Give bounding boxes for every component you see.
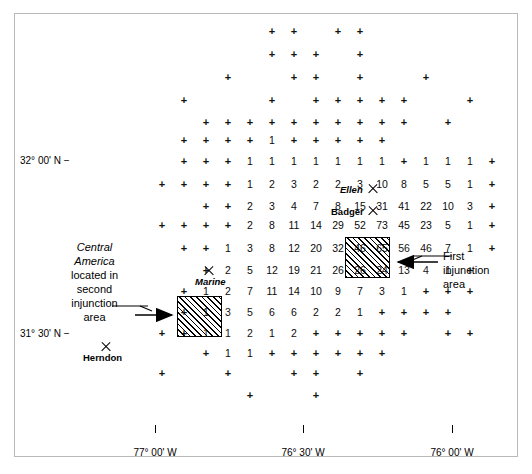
grid-cell-marker: + bbox=[347, 71, 373, 83]
site-label-marine: Marine bbox=[195, 276, 226, 287]
second-injunction-note-line-0: Central bbox=[47, 240, 142, 254]
longitude-label-1: 76° 30' W bbox=[258, 447, 348, 459]
grid-cell-marker: + bbox=[347, 48, 373, 60]
second-injunction-note: CentralAmericalocated insecondinjunction… bbox=[47, 240, 142, 324]
latitude-label-0: 32° 00' N − bbox=[20, 155, 70, 167]
first-injunction-note-line-0: First bbox=[443, 249, 523, 263]
site-label-badger: Badger bbox=[331, 206, 364, 217]
longitude-label-0: 77° 00' W bbox=[110, 447, 200, 459]
grid-cell-marker: + bbox=[435, 306, 461, 318]
grid-cell-marker: + bbox=[303, 389, 329, 401]
grid-cell-marker: + bbox=[347, 25, 373, 37]
longitude-label-2: 76° 00' W bbox=[407, 447, 497, 459]
grid-cell-marker: + bbox=[237, 389, 263, 401]
grid-cell-marker: + bbox=[479, 200, 505, 212]
first-injunction-note-line-2: area bbox=[443, 277, 523, 291]
grid-cell-marker: + bbox=[391, 94, 417, 106]
grid-cell-marker: + bbox=[303, 367, 329, 379]
grid-cell-marker: + bbox=[347, 367, 373, 379]
site-marker-ellen-x-icon[interactable] bbox=[367, 183, 379, 195]
acoustic-density-map-figure: ++++++++++++++++++++++++++++++++++++1+++… bbox=[0, 0, 532, 474]
grid-cell-marker: + bbox=[215, 367, 241, 379]
site-marker-badger-x-icon[interactable] bbox=[367, 205, 379, 217]
grid-cell-marker: + bbox=[479, 178, 505, 190]
second-injunction-note-line-5: area bbox=[47, 310, 142, 324]
grid-cell-marker: + bbox=[369, 134, 395, 146]
grid-cell-marker: + bbox=[479, 219, 505, 231]
grid-cell-marker: + bbox=[303, 71, 329, 83]
first-injunction-note-line-1: injunction bbox=[443, 263, 523, 277]
grid-cell-marker: + bbox=[479, 155, 505, 167]
grid-cell-marker: + bbox=[457, 327, 483, 339]
site-label-herndon: Herndon bbox=[83, 352, 122, 363]
second-injunction-note-line-3: second bbox=[47, 282, 142, 296]
longitude-tick-1 bbox=[303, 425, 304, 433]
second-injunction-note-line-1: America bbox=[47, 254, 142, 268]
grid-cell-marker: + bbox=[259, 94, 285, 106]
grid-cell-marker: + bbox=[457, 94, 483, 106]
grid-cell-marker: + bbox=[413, 71, 439, 83]
second-injunction-note-line-2: located in bbox=[47, 268, 142, 282]
site-label-ellen: Ellen bbox=[340, 184, 363, 195]
grid-cell-marker: + bbox=[391, 116, 417, 128]
longitude-tick-0 bbox=[155, 425, 156, 433]
first-injunction-note: Firstinjunctionarea bbox=[443, 249, 523, 291]
grid-cell-marker: + bbox=[303, 48, 329, 60]
grid-cell-marker: + bbox=[215, 71, 241, 83]
longitude-tick-2 bbox=[452, 425, 453, 433]
grid-cell-marker: + bbox=[281, 25, 307, 37]
second-injunction-note-line-4: injunction bbox=[47, 296, 142, 310]
grid-cell-marker: + bbox=[369, 347, 395, 359]
grid-cell-marker: + bbox=[171, 94, 197, 106]
latitude-label-1: 31° 30' N − bbox=[20, 328, 70, 340]
grid-cell-marker: + bbox=[149, 367, 175, 379]
grid-cell-marker: + bbox=[435, 116, 461, 128]
detection-grid-layer: ++++++++++++++++++++++++++++++++++++1+++… bbox=[0, 0, 532, 474]
grid-cell-marker: + bbox=[391, 327, 417, 339]
